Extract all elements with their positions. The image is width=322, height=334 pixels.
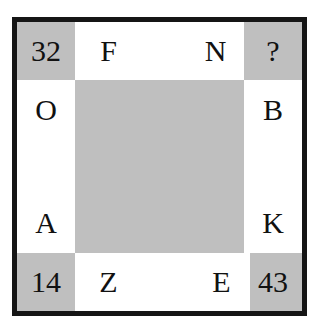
edge-cell-right-1: B [244,80,302,140]
edge-cell-left-2: A [17,193,75,253]
edge-cell-top-2: N [187,22,244,80]
puzzle-frame: 32 ? 14 43 F N Z E O A B K [12,17,307,316]
corner-cell-top-left: 32 [17,22,75,80]
corner-cell-bottom-left: 14 [17,253,75,311]
edge-cell-right-2: K [244,193,302,253]
edge-cell-bottom-2: E [193,253,250,311]
edge-cell-left-1: O [17,80,75,140]
edge-cell-bottom-1: Z [75,253,142,311]
center-blank-region [75,80,244,253]
puzzle-grid: 32 ? 14 43 F N Z E O A B K [17,22,302,311]
corner-cell-top-right-unknown[interactable]: ? [244,22,302,80]
corner-cell-bottom-right: 43 [244,253,302,311]
edge-cell-top-1: F [75,22,142,80]
